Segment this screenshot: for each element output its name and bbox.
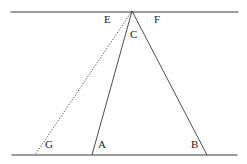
apex-to-g-dotted-line [35, 11, 132, 155]
vertex-label-A: A [98, 139, 106, 150]
vertex-label-F: F [154, 14, 160, 25]
vertex-label-E: E [104, 14, 111, 25]
geometry-canvas [0, 0, 247, 164]
vertex-label-G: G [45, 139, 53, 150]
apex-to-a-line [92, 11, 132, 155]
vertex-label-C: C [130, 29, 137, 40]
apex-to-b-line [132, 11, 207, 155]
vertex-label-B: B [191, 139, 198, 150]
geometry-figure: E F C G A B [0, 0, 247, 164]
